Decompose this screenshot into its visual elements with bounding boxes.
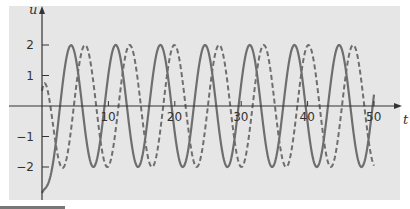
curves <box>42 45 374 193</box>
x-axis-arrow-icon <box>394 103 402 109</box>
x-tick-label: 30 <box>233 110 248 124</box>
solid-curve <box>42 45 374 193</box>
x-tick-label: 10 <box>100 110 115 124</box>
y-tick-label: 2 <box>26 38 34 52</box>
y-axis-label: u <box>29 2 37 17</box>
y-tick-label: −1 <box>16 130 34 144</box>
y-tick-label: 1 <box>26 69 34 83</box>
y-tick-label: −2 <box>16 160 34 174</box>
x-tick-label: 40 <box>300 110 315 124</box>
y-axis-arrow-icon <box>39 6 45 14</box>
x-tick-label: 20 <box>167 110 182 124</box>
x-tick-label: 50 <box>366 110 381 124</box>
x-axis-label: t <box>403 112 409 127</box>
chart: t u 1020304050−2−112 <box>0 0 410 209</box>
